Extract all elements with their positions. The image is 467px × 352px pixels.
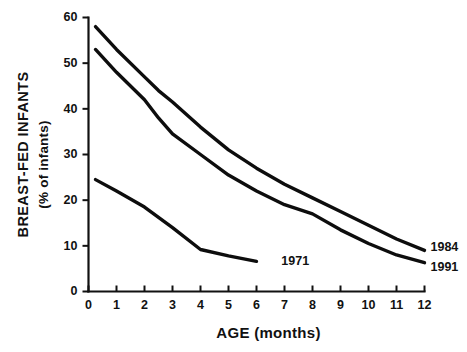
x-tick-label: 1 [113,298,120,312]
x-tick-label: 0 [85,298,92,312]
y-axis-title: BREAST-FED INFANTS [15,72,31,238]
chart-axes [89,18,425,292]
x-tick-label: 3 [169,298,176,312]
chart-series [96,27,425,263]
y-tick-label: 40 [64,102,78,116]
series-label-1971: 1971 [281,254,309,268]
chart-axis-titles: AGE (months)BREAST-FED INFANTS(% of infa… [15,72,321,341]
y-tick-label: 30 [64,147,78,161]
y-tick-label: 20 [64,193,78,207]
x-tick-label: 12 [418,298,432,312]
x-tick-label: 10 [362,298,376,312]
line-chart: 0102030405060012345678910111219841991197… [0,0,467,352]
x-tick-label: 8 [309,298,316,312]
x-axis-title: AGE (months) [216,324,320,341]
x-tick-label: 2 [141,298,148,312]
chart-figure: 0102030405060012345678910111219841991197… [0,0,467,352]
x-tick-label: 7 [281,298,288,312]
series-line-1984 [96,27,425,251]
x-tick-label: 5 [225,298,232,312]
x-tick-label: 4 [197,298,204,312]
y-tick-label: 50 [64,56,78,70]
x-tick-label: 6 [253,298,260,312]
series-line-1971 [96,180,257,262]
series-label-1991: 1991 [431,260,459,274]
chart-ticks [83,18,425,292]
y-tick-label: 10 [64,239,78,253]
y-axis-subtitle: (% of infants) [36,120,51,208]
y-tick-label: 60 [64,10,78,24]
x-tick-label: 9 [337,298,344,312]
series-label-1984: 1984 [431,240,459,254]
series-line-1991 [96,49,425,262]
x-tick-label: 11 [390,298,403,312]
y-tick-label: 0 [71,284,78,298]
